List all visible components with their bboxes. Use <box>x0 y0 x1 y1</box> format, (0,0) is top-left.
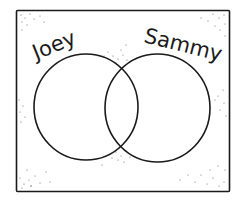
venn-diagram: Joey Sammy <box>0 0 245 205</box>
